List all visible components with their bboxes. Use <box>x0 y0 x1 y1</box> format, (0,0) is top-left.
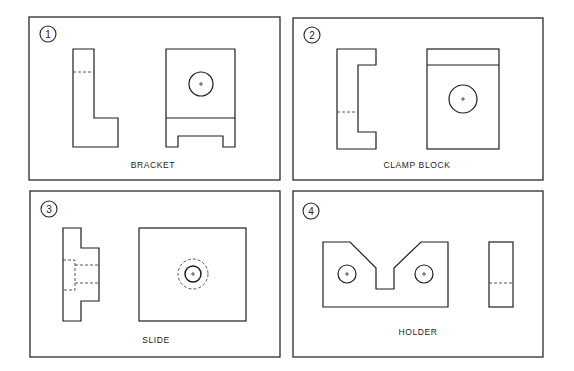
panel-holder: 4 HOLDER <box>293 191 543 357</box>
bracket-front-view <box>166 49 235 147</box>
panel-caption: BRACKET <box>131 160 175 170</box>
panel-frame <box>29 17 280 180</box>
panel-number-badge: 2 <box>304 27 320 43</box>
clamp-side-view <box>337 49 376 149</box>
panel-caption: CLAMP BLOCK <box>384 160 451 170</box>
hidden-counterbore <box>63 260 75 290</box>
orthographic-drawings: 1 BRACKET 2 <box>0 0 574 371</box>
slide-front-view <box>139 228 246 321</box>
panel-frame <box>293 18 543 180</box>
panel-number-badge: 1 <box>40 26 56 42</box>
panel-bracket: 1 BRACKET <box>29 17 280 180</box>
panel-number: 4 <box>308 206 314 217</box>
panel-number: 3 <box>46 204 52 215</box>
panel-caption: HOLDER <box>398 327 437 337</box>
panel-number: 1 <box>45 29 51 40</box>
panel-number-badge: 4 <box>303 203 319 219</box>
panel-number: 2 <box>309 30 315 41</box>
clamp-front-view <box>427 49 499 149</box>
panel-caption: SLIDE <box>142 335 170 345</box>
slide-side-view <box>63 228 99 321</box>
holder-front-view <box>323 242 448 307</box>
panel-number-badge: 3 <box>41 201 57 217</box>
panel-clamp-block: 2 CLAMP BLOCK <box>293 18 543 180</box>
panel-slide: 3 SLIDE <box>30 191 280 357</box>
holder-side-view <box>489 242 513 307</box>
bracket-side-view <box>73 49 118 147</box>
panel-frame <box>30 191 280 357</box>
